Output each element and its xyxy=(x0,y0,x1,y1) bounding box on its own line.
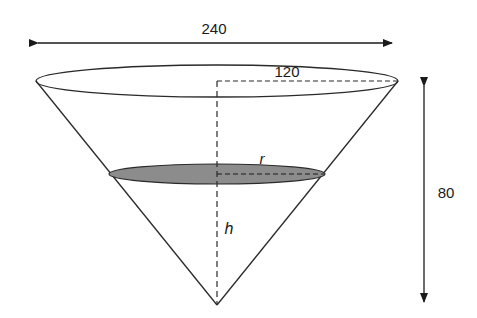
section-height-label: h xyxy=(225,220,234,237)
height-label: 80 xyxy=(438,184,455,201)
diameter-label: 240 xyxy=(201,20,226,37)
cone-diagram: 240 120 r h 80 xyxy=(0,0,477,318)
top-radius-label: 120 xyxy=(274,63,299,80)
